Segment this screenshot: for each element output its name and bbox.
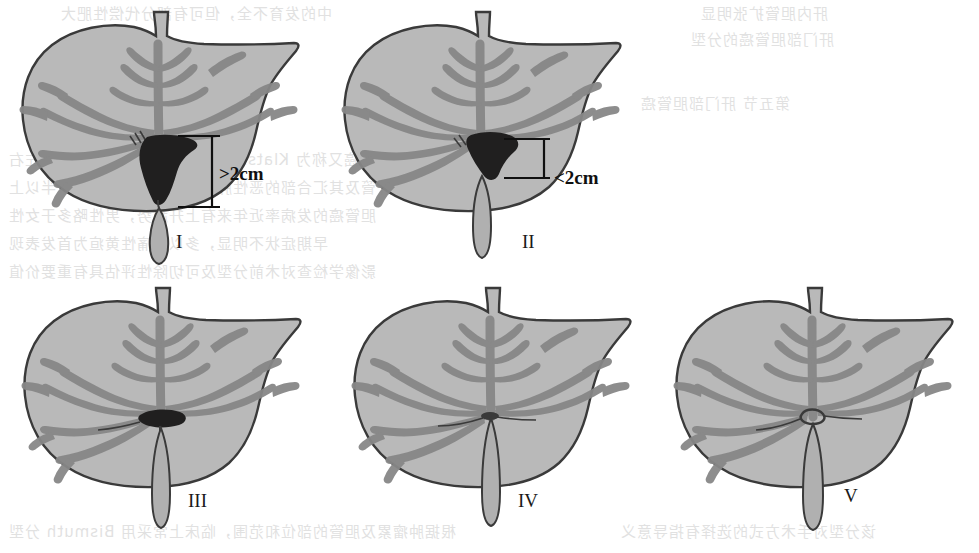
- panel-type-1: >2cm I: [8, 10, 318, 272]
- panel-label-3: III: [188, 491, 207, 510]
- panel-type-4: IV: [340, 286, 650, 548]
- bleed-text-1: 肝内胆管扩张明显: [700, 2, 828, 23]
- panel-type-5: V: [662, 286, 972, 548]
- figure-root: 中的发育不全，但可有部分代偿性肥大肝内胆管扩张明显肝门部胆管癌的分型第五节 肝门…: [0, 0, 979, 553]
- panel-label-4: IV: [518, 491, 538, 510]
- measurement-label-2: <2cm: [554, 168, 599, 187]
- panel-label-5: V: [844, 486, 858, 505]
- panel-type-2: <2cm II: [330, 10, 640, 272]
- measurement-label-1: >2cm: [219, 164, 264, 183]
- bleed-text-2: 肝门部胆管癌的分型: [690, 28, 834, 49]
- panel-label-2: II: [522, 232, 535, 251]
- measurement-bracket-2: [502, 136, 558, 184]
- bleed-text-3: 第五节 肝门部胆管癌: [640, 92, 790, 113]
- panel-type-3: III: [10, 286, 320, 548]
- panel-label-1: I: [176, 232, 182, 251]
